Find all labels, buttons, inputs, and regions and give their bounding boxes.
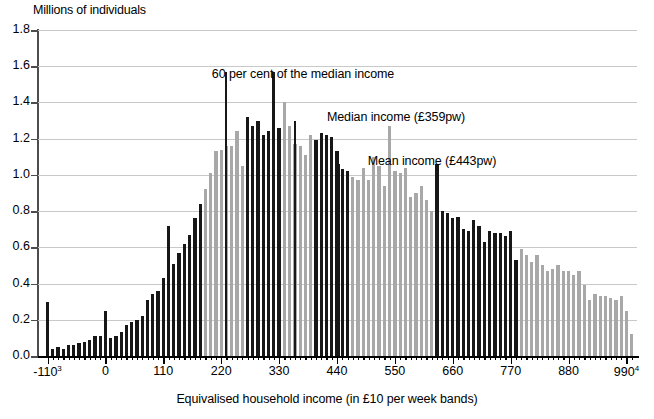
y-tick-label: 1.4 <box>2 94 30 108</box>
x-tick-minor <box>437 356 438 360</box>
bar <box>67 345 70 356</box>
bar <box>593 294 596 356</box>
bar <box>441 211 444 356</box>
x-tick-minor <box>516 356 517 360</box>
bar <box>277 128 280 356</box>
annotation-label: 60 per cent of the median income <box>212 67 394 81</box>
x-tick-minor <box>169 356 170 360</box>
x-tick-minor <box>353 356 354 360</box>
bar <box>283 102 286 356</box>
bar <box>288 126 291 356</box>
bar <box>456 217 459 356</box>
bar <box>425 200 428 356</box>
bar <box>120 332 123 356</box>
bar <box>220 150 223 356</box>
x-tick-label: 330 <box>269 364 290 378</box>
x-tick-minor <box>584 356 585 360</box>
x-tick-minor <box>305 356 306 360</box>
x-tick-minor <box>405 356 406 360</box>
x-tick-label: 9904 <box>614 364 639 379</box>
bar <box>404 168 407 356</box>
annotation-label: Mean income (£443pw) <box>368 154 497 168</box>
y-tick-label: 0.2 <box>2 312 30 326</box>
y-tick-label: 0.0 <box>2 348 30 362</box>
y-tick <box>31 211 38 213</box>
bar <box>246 117 249 356</box>
bar <box>214 151 217 356</box>
bar <box>362 168 365 356</box>
bar <box>235 131 238 356</box>
x-tick-minor <box>426 356 427 360</box>
bar <box>509 231 512 356</box>
x-tick-minor <box>458 356 459 360</box>
y-axis-title: Millions of individuals <box>33 3 146 17</box>
bar <box>577 271 580 356</box>
bar <box>462 229 465 356</box>
x-tick-minor <box>553 356 554 360</box>
x-tick-minor <box>411 356 412 360</box>
x-tick-minor <box>616 356 617 360</box>
x-tick-label: 440 <box>327 364 348 378</box>
x-tick-minor <box>563 356 564 360</box>
x-tick-minor <box>100 356 101 360</box>
x-tick-label: 770 <box>500 364 521 378</box>
bar <box>525 255 528 356</box>
x-tick-label: 880 <box>558 364 579 378</box>
x-tick-minor <box>137 356 138 360</box>
bar <box>114 336 117 356</box>
x-tick-minor <box>332 356 333 360</box>
x-tick-label: -1103 <box>33 364 62 379</box>
x-tick-major <box>453 356 454 364</box>
bar <box>241 166 244 356</box>
bar <box>183 244 186 356</box>
bar <box>556 265 559 356</box>
x-tick-minor <box>153 356 154 360</box>
x-tick-minor <box>421 356 422 360</box>
bar <box>472 220 475 356</box>
x-tick-minor <box>300 356 301 360</box>
x-tick-minor <box>548 356 549 360</box>
x-tick-minor <box>384 356 385 360</box>
x-tick-minor <box>490 356 491 360</box>
x-tick-minor <box>74 356 75 360</box>
annotation-marker-line <box>294 121 296 356</box>
x-tick-minor <box>200 356 201 360</box>
gridline <box>37 30 637 31</box>
bar <box>409 197 412 356</box>
bar <box>272 72 275 356</box>
bar <box>104 311 107 356</box>
bar <box>230 146 233 356</box>
y-tick-label: 0.8 <box>2 203 30 217</box>
bar <box>162 278 165 356</box>
x-tick-minor <box>532 356 533 360</box>
bar <box>304 155 307 356</box>
bar <box>109 338 112 356</box>
bar <box>256 121 259 356</box>
bar <box>609 298 612 356</box>
x-tick-minor <box>295 356 296 360</box>
x-tick-major <box>626 356 627 364</box>
bar <box>630 334 633 356</box>
x-tick-minor <box>158 356 159 360</box>
bar <box>62 349 65 356</box>
bar <box>393 171 396 356</box>
x-tick-minor <box>58 356 59 360</box>
annotation-marker-line <box>225 72 227 356</box>
x-tick-minor <box>558 356 559 360</box>
bar <box>625 311 628 356</box>
bar <box>151 294 154 356</box>
x-tick-minor <box>474 356 475 360</box>
x-tick-minor <box>126 356 127 360</box>
bar <box>620 296 623 356</box>
x-tick-minor <box>463 356 464 360</box>
bar <box>172 264 175 356</box>
gridline <box>37 139 637 140</box>
y-tick <box>31 247 38 249</box>
x-tick-minor <box>53 356 54 360</box>
x-tick-label: 0 <box>102 364 109 378</box>
bar <box>583 285 586 356</box>
x-tick-minor <box>574 356 575 360</box>
bar <box>551 269 554 356</box>
x-tick-minor <box>542 356 543 360</box>
y-tick-label: 0.6 <box>2 239 30 253</box>
